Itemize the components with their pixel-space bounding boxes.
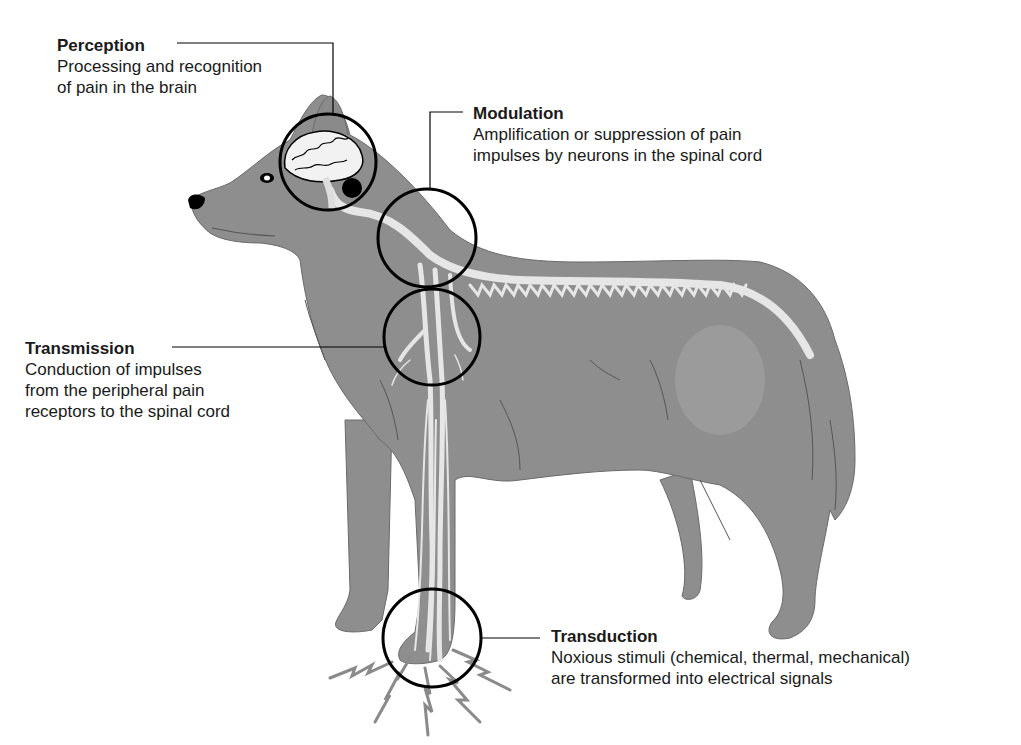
modulation-desc-line-2: impulses by neurons in the spinal cord xyxy=(473,145,762,166)
transmission-desc-line-2: from the peripheral pain xyxy=(25,380,230,401)
perception-title: Perception xyxy=(57,35,262,56)
modulation-desc-line-1: Amplification or suppression of pain xyxy=(473,124,762,145)
far-hind-leg xyxy=(660,470,702,599)
modulation-leader xyxy=(430,112,463,189)
transmission-title: Transmission xyxy=(25,338,230,359)
modulation-callout: Modulation Amplification or suppression … xyxy=(473,103,762,166)
perception-desc-line-1: Processing and recognition xyxy=(57,56,262,77)
hip-highlight xyxy=(675,325,765,435)
eye-highlight xyxy=(264,176,270,181)
transmission-desc-line-1: Conduction of impulses xyxy=(25,359,230,380)
transduction-desc-line-2: are transformed into electrical signals xyxy=(551,668,910,689)
transmission-callout: Transmission Conduction of impulses from… xyxy=(25,338,230,422)
transduction-title: Transduction xyxy=(551,626,910,647)
transduction-desc-line-1: Noxious stimuli (chemical, thermal, mech… xyxy=(551,647,910,668)
transmission-desc-line-3: receptors to the spinal cord xyxy=(25,401,230,422)
perception-callout: Perception Processing and recognition of… xyxy=(57,35,262,98)
cerebellum xyxy=(342,178,362,198)
modulation-title: Modulation xyxy=(473,103,762,124)
perception-desc-line-2: of pain in the brain xyxy=(57,77,262,98)
far-front-leg xyxy=(335,420,392,632)
transduction-callout: Transduction Noxious stimuli (chemical, … xyxy=(551,626,910,689)
dog-body xyxy=(188,95,855,664)
